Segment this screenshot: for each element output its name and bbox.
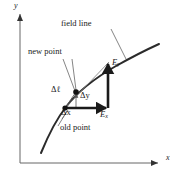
field-line-curve: [41, 44, 159, 153]
secant-line: [65, 62, 109, 108]
delta-l-label: Δℓ: [51, 85, 61, 94]
e-y-subscript: y: [117, 61, 120, 67]
new-point-label: new point: [28, 47, 62, 56]
x-axis-label: x: [166, 154, 170, 162]
field-line-label: field line: [61, 19, 91, 28]
y-axis-label: y: [14, 2, 18, 10]
delta-y-label: Δy: [80, 91, 90, 100]
field-line-leader: [111, 29, 126, 59]
old-point-label: old point: [60, 123, 90, 132]
e-y-label: Ey: [112, 58, 120, 67]
new-point-marker: [73, 89, 79, 95]
new-point-leader-2: [63, 59, 75, 91]
delta-x-label: Δx: [61, 108, 71, 117]
delta-l-segment: [65, 92, 76, 108]
e-x-subscript: x: [105, 113, 108, 119]
field-line-diagram: y x field line new point old point Δℓ Δy…: [0, 0, 181, 181]
e-x-label: Ex: [100, 110, 108, 119]
